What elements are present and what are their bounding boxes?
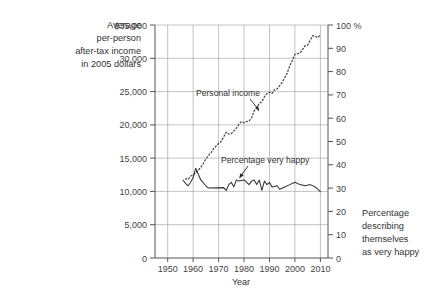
right-tick-label-0: 0 (336, 254, 341, 264)
left-tick-label-15000: 15,000 (119, 154, 147, 164)
right-tick-label-80: 80 (336, 67, 346, 77)
x-tick-label-1950: 1950 (158, 264, 178, 274)
income-happiness-line-chart: $35,000 30,000 25,000 20,000 15,000 10,0… (0, 0, 442, 305)
left-axis-title-line-4: in 2005 dollars (81, 59, 141, 69)
right-tick-label-40: 40 (336, 160, 346, 170)
left-tick-label-5000: 5,000 (124, 220, 147, 230)
left-axis-title-line-1: Average (107, 20, 141, 30)
x-tick-label-1960: 1960 (183, 264, 203, 274)
right-axis-title-line-4: as very happy (362, 247, 420, 257)
right-tick-label-60: 60 (336, 114, 346, 124)
left-axis-title: Average per-person after-tax income in 2… (75, 20, 141, 69)
x-tick-label-2000: 2000 (285, 264, 305, 274)
right-tick-label-90: 90 (336, 44, 346, 54)
x-tick-label-1970: 1970 (209, 264, 229, 274)
left-tick-label-0: 0 (142, 254, 147, 264)
right-axis-title: Percentage describing themselves as very… (362, 208, 420, 257)
x-axis-tick-labels: 1950 1960 1970 1980 1990 2000 2010 (158, 264, 331, 274)
left-tick-label-25000: 25,000 (119, 87, 147, 97)
x-tick-label-2010: 2010 (310, 264, 330, 274)
x-axis-ticks (168, 258, 321, 262)
left-axis-title-line-3: after-tax income (75, 46, 141, 56)
right-tick-label-30: 30 (336, 184, 346, 194)
plot-background (155, 25, 328, 258)
right-tick-label-100: 100 % (336, 21, 362, 31)
annotation-personal-income-label: Personal income (196, 88, 260, 98)
right-tick-label-20: 20 (336, 207, 346, 217)
right-tick-label-50: 50 (336, 137, 346, 147)
x-tick-label-1980: 1980 (234, 264, 254, 274)
right-tick-label-70: 70 (336, 90, 346, 100)
x-axis-title: Year (232, 277, 250, 287)
right-axis-ticks (328, 25, 333, 258)
left-tick-label-10000: 10,000 (119, 187, 147, 197)
left-axis-ticks (150, 25, 155, 258)
right-tick-label-10: 10 (336, 230, 346, 240)
right-axis-tick-labels: 100 % 90 80 70 60 50 40 30 20 10 0 (336, 21, 362, 264)
left-axis-title-line-2: per-person (97, 33, 141, 43)
right-axis-title-line-3: themselves (362, 234, 409, 244)
chart-container: $35,000 30,000 25,000 20,000 15,000 10,0… (0, 0, 442, 305)
right-axis-title-line-1: Percentage (362, 208, 409, 218)
x-tick-label-1990: 1990 (259, 264, 279, 274)
left-axis-tick-labels: $35,000 30,000 25,000 20,000 15,000 10,0… (114, 21, 147, 264)
right-axis-title-line-2: describing (362, 221, 404, 231)
annotation-percentage-very-happy-label: Percentage very happy (221, 155, 310, 165)
left-tick-label-20000: 20,000 (119, 120, 147, 130)
